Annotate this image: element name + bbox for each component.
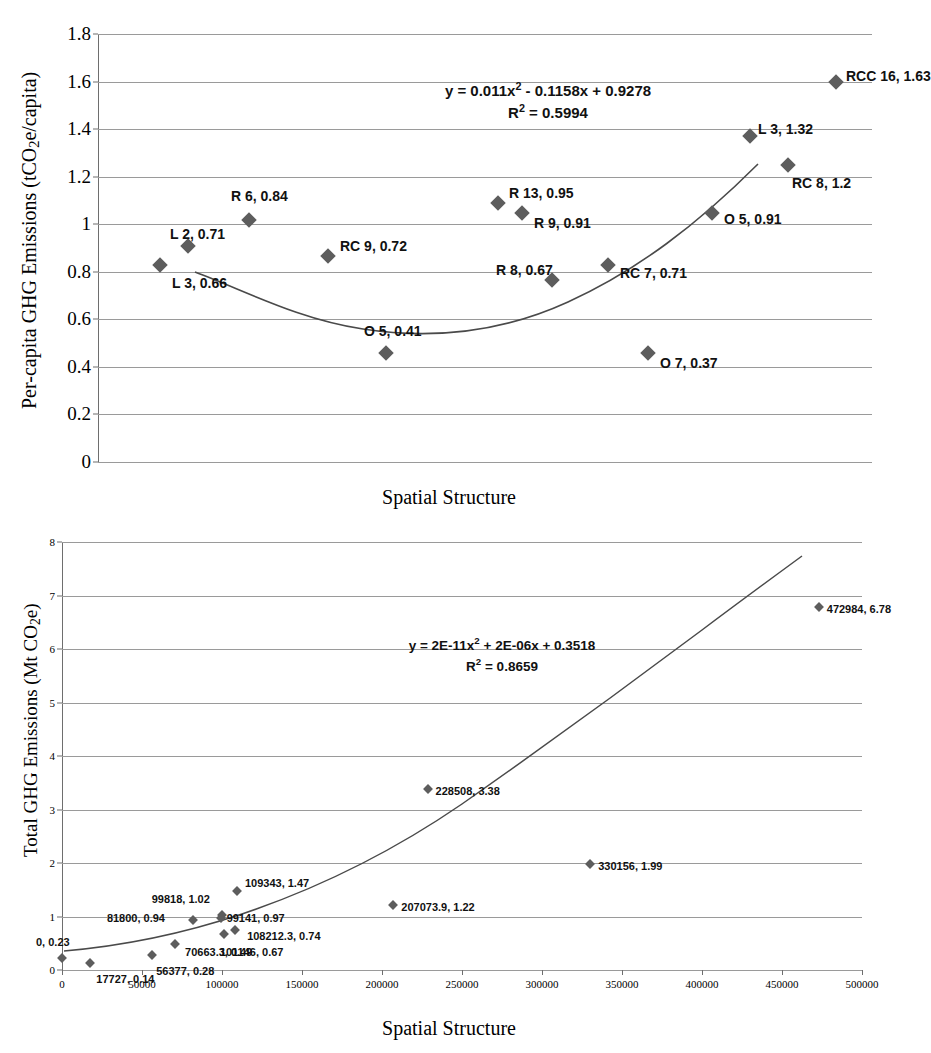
- total-y-axis-title-prefix: Total GHG Emissions (Mt CO: [20, 625, 41, 857]
- y-tick-mark: [93, 414, 98, 415]
- total-x-axis-title: Spatial Structure: [0, 1017, 898, 1040]
- data-point-label: R 6, 0.84: [231, 188, 288, 204]
- gridline: [98, 462, 872, 463]
- data-point-label: L 2, 0.71: [170, 226, 225, 242]
- data-point-label: 207073.9, 1.22: [401, 901, 474, 913]
- gridline: [98, 414, 872, 415]
- gridline: [98, 177, 872, 178]
- x-tick-mark: [862, 970, 863, 975]
- data-point-label: 330156, 1.99: [598, 860, 662, 872]
- total-emissions-chart: Total GHG Emissions (Mt CO2e) 876543210 …: [0, 520, 898, 1053]
- data-point-label: 56377, 0.28: [156, 965, 214, 977]
- data-point-marker[interactable]: [585, 859, 595, 869]
- per-capita-r2-line: R2 = 0.5994: [398, 101, 698, 123]
- gridline: [98, 367, 872, 368]
- gridline: [62, 596, 862, 597]
- gridline: [98, 319, 872, 320]
- x-tick-mark: [302, 970, 303, 975]
- data-point-label: O 7, 0.37: [660, 355, 718, 371]
- y-axis-title-suffix: e/capita): [18, 71, 40, 140]
- data-point-marker[interactable]: [780, 157, 796, 173]
- data-point-marker[interactable]: [423, 784, 433, 794]
- total-r2-line: R2 = 0.8659: [342, 655, 662, 676]
- y-tick-mark: [93, 366, 98, 367]
- gridline: [62, 703, 862, 704]
- data-point-marker[interactable]: [640, 345, 656, 361]
- y-tick-mark: [57, 542, 62, 543]
- data-point-marker[interactable]: [85, 958, 95, 968]
- gridline: [98, 34, 872, 35]
- y-tick-mark: [93, 224, 98, 225]
- y-axis-title-prefix: Per-capita GHG Emissions (tCO: [18, 147, 40, 408]
- data-point-marker[interactable]: [320, 248, 336, 264]
- data-point-label: 99141, 0.97: [227, 912, 285, 924]
- per-capita-equation-line: y = 0.011x2 - 0.1158x + 0.9278: [398, 79, 698, 101]
- data-point-label: R 13, 0.95: [509, 185, 574, 201]
- data-point-label: L 3, 0.66: [172, 275, 227, 291]
- data-point-label: 108212.3, 0.74: [247, 930, 320, 942]
- y-tick-mark: [93, 462, 98, 463]
- data-point-label: 99818, 1.02: [152, 893, 210, 905]
- data-point-marker[interactable]: [814, 602, 824, 612]
- y-tick-mark: [57, 916, 62, 917]
- total-equation: y = 2E-11x2 + 2E-06x + 0.3518 R2 = 0.865…: [342, 634, 662, 675]
- total-y-axis-title-suffix: e): [20, 603, 41, 618]
- data-point-marker[interactable]: [490, 195, 506, 211]
- data-point-label: 0, 0.23: [36, 936, 70, 948]
- y-tick-mark: [57, 595, 62, 596]
- data-point-marker[interactable]: [828, 74, 844, 90]
- y-axis-title-subscript: 2: [26, 140, 42, 147]
- data-point-marker[interactable]: [600, 257, 616, 273]
- x-tick-mark: [382, 970, 383, 975]
- data-point-marker[interactable]: [147, 950, 157, 960]
- data-point-marker[interactable]: [514, 205, 530, 221]
- data-point-label: O 5, 0.41: [364, 323, 422, 339]
- data-point-label: R 8, 0.67: [496, 262, 553, 278]
- data-point-label: RC 9, 0.72: [340, 238, 407, 254]
- data-point-marker[interactable]: [57, 953, 67, 963]
- data-point-marker[interactable]: [704, 205, 720, 221]
- per-capita-y-axis-title: Per-capita GHG Emissions (tCO2e/capita): [18, 30, 43, 450]
- gridline: [62, 917, 862, 918]
- data-point-label: 17727, 0.14: [96, 973, 154, 985]
- per-capita-chart: Per-capita GHG Emissions (tCO2e/capita) …: [0, 0, 898, 520]
- data-point-label: RC 8, 1.2: [792, 175, 851, 191]
- y-tick-mark: [93, 129, 98, 130]
- gridline: [98, 129, 872, 130]
- gridline: [62, 542, 862, 543]
- x-tick-mark: [62, 970, 63, 975]
- per-capita-x-axis-title: Spatial Structure: [0, 486, 898, 509]
- data-point-marker[interactable]: [232, 886, 242, 896]
- gridline: [98, 272, 872, 273]
- y-tick-mark: [57, 863, 62, 864]
- x-tick-mark: [542, 970, 543, 975]
- data-point-label: R 9, 0.91: [534, 215, 591, 231]
- data-point-marker[interactable]: [219, 929, 229, 939]
- y-tick-mark: [57, 809, 62, 810]
- y-tick-mark: [93, 176, 98, 177]
- data-point-marker[interactable]: [388, 900, 398, 910]
- data-point-marker[interactable]: [241, 212, 257, 228]
- y-tick-mark: [93, 271, 98, 272]
- data-point-label: RCC 16, 1.63: [846, 68, 931, 84]
- x-tick-mark: [782, 970, 783, 975]
- data-point-label: O 5, 0.91: [724, 211, 782, 227]
- per-capita-equation: y = 0.011x2 - 0.1158x + 0.9278 R2 = 0.59…: [398, 79, 698, 124]
- total-plot-area: 876543210 050000100000150000200000250000…: [62, 542, 862, 970]
- data-point-marker[interactable]: [378, 345, 394, 361]
- y-tick-mark: [57, 756, 62, 757]
- y-tick-mark: [57, 702, 62, 703]
- data-point-marker[interactable]: [152, 257, 168, 273]
- data-point-label: 228508, 3.38: [436, 785, 500, 797]
- gridline: [62, 863, 862, 864]
- data-point-marker[interactable]: [170, 939, 180, 949]
- data-point-marker[interactable]: [230, 925, 240, 935]
- data-point-label: RC 7, 0.71: [620, 265, 687, 281]
- data-point-label: 81800, 0.94: [107, 912, 165, 924]
- x-tick-mark: [462, 970, 463, 975]
- x-tick-mark: [702, 970, 703, 975]
- y-tick-mark: [57, 649, 62, 650]
- gridline: [62, 756, 862, 757]
- y-tick-mark: [93, 319, 98, 320]
- data-point-marker[interactable]: [742, 128, 758, 144]
